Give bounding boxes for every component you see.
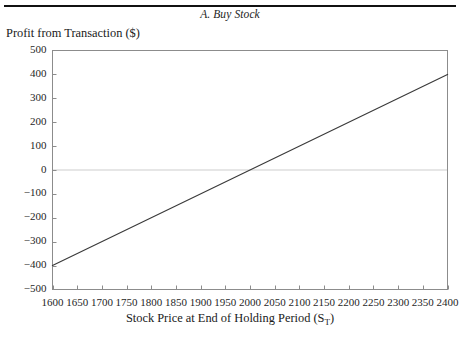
y-axis-tick-label: −500 [9,282,47,294]
y-axis-tick-label: 200 [9,115,47,127]
y-axis-tick-label: −100 [9,186,47,198]
y-axis-tick-label: −200 [9,210,47,222]
y-axis-tick-label: −400 [9,258,47,270]
x-axis-tick-label: 2400 [431,296,460,308]
y-axis-tick-label: 100 [9,139,47,151]
y-axis-tick-label: 500 [9,43,47,55]
y-axis-tick-label: 400 [9,67,47,79]
y-axis-tick-label: 300 [9,91,47,103]
plot-svg [0,0,460,345]
y-axis-tick-label: −300 [9,234,47,246]
plot-area: −500−400−300−200−10001002003004005001600… [0,0,460,345]
y-axis-tick-label: 0 [9,163,47,175]
